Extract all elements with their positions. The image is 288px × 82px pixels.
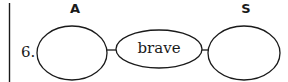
item-number: 6. (21, 43, 35, 61)
column-label-s: S (236, 1, 256, 16)
middle-word: brave (116, 39, 202, 57)
answer-oval-left[interactable] (37, 26, 107, 80)
column-label-a: A (65, 1, 85, 16)
exercise-item: A S 6. brave (0, 0, 288, 82)
answer-oval-right[interactable] (208, 26, 280, 80)
